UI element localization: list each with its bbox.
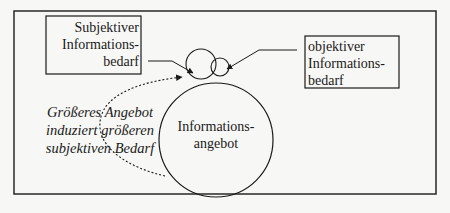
objective-need-line: Informations- [308,55,398,72]
information-supply-line: Informations- [158,118,274,135]
induction-note: Größeres Angebot induziert größeren subj… [40,103,160,157]
objective-need-label: objektiver Informations- bedarf [308,38,398,89]
objective-need-circle [211,58,229,76]
information-supply-label: Informations- angebot [158,118,274,152]
objective-need-connector [227,50,297,69]
induction-note-line: induziert größeren [40,121,160,139]
subjective-need-line: bedarf [46,53,139,70]
information-supply-line: angebot [158,135,274,152]
subjective-need-line: Informations- [46,36,139,53]
subjective-need-line: Subjektiver [46,19,139,36]
objective-need-line: objektiver [308,38,398,55]
subjective-need-label: Subjektiver Informations- bedarf [46,19,139,70]
induction-note-line: subjektiven Bedarf [40,139,160,157]
objective-need-line: bedarf [308,72,398,89]
induction-note-line: Größeres Angebot [40,103,160,121]
